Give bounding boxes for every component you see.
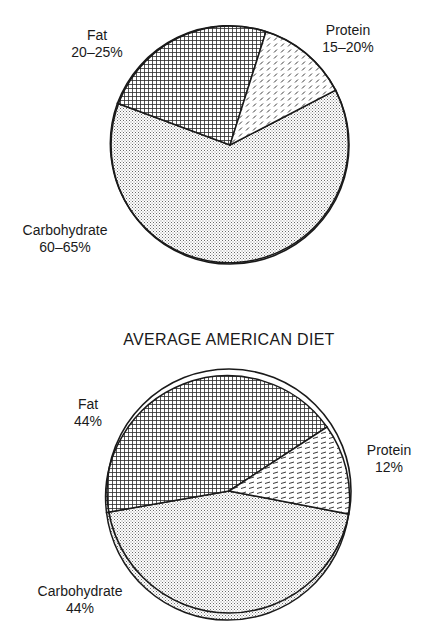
bottom-label-fat: Fat 44% (74, 396, 102, 430)
bottom-fat-name: Fat (74, 396, 102, 413)
top-carb-pct: 60–65% (23, 239, 108, 256)
bottom-label-carbohydrate: Carbohydrate 44% (38, 583, 123, 617)
bottom-fat-pct: 44% (74, 413, 102, 430)
top-carb-name: Carbohydrate (23, 222, 108, 239)
bottom-label-protein: Protein 12% (367, 442, 411, 476)
bottom-slice-carbohydrate (107, 491, 349, 620)
bottom-carb-name: Carbohydrate (38, 583, 123, 600)
bottom-pie (106, 369, 351, 620)
bottom-protein-name: Protein (367, 442, 411, 459)
top-fat-name: Fat (71, 27, 122, 44)
top-pie (110, 26, 349, 264)
pie-charts (0, 0, 441, 635)
top-fat-pct: 20–25% (71, 44, 122, 61)
bottom-protein-pct: 12% (367, 459, 411, 476)
top-label-protein: Protein 15–20% (322, 22, 373, 56)
top-label-carbohydrate: Carbohydrate 60–65% (23, 222, 108, 256)
bottom-carb-pct: 44% (38, 600, 123, 617)
top-protein-name: Protein (322, 22, 373, 39)
top-protein-pct: 15–20% (322, 39, 373, 56)
bottom-chart-title: AVERAGE AMERICAN DIET (123, 331, 334, 349)
top-label-fat: Fat 20–25% (71, 27, 122, 61)
